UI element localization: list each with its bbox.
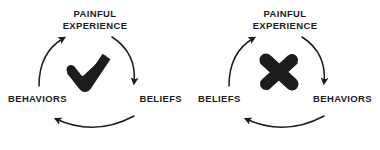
- label-behaviors-left: BEHAVIORS: [8, 93, 67, 105]
- cycle-diagram-healthy: PAINFUL EXPERIENCE BEHAVIORS BELIEFS: [0, 0, 190, 150]
- label-painful-experience-right: PAINFUL EXPERIENCE: [190, 8, 380, 32]
- painful-line: PAINFUL: [74, 8, 117, 19]
- arrow-left-to-experience: [39, 38, 64, 86]
- label-beliefs-left: BELIEFS: [139, 93, 182, 105]
- label-painful-experience-left: PAINFUL EXPERIENCE: [0, 8, 190, 32]
- label-behaviors-right: BEHAVIORS: [313, 93, 372, 105]
- experience-line: EXPERIENCE: [190, 20, 380, 32]
- arrow-experience-to-right: [112, 37, 134, 83]
- arrow-left-to-experience: [229, 38, 254, 86]
- arrow-right-to-left: [246, 116, 324, 127]
- diagram-canvas: PAINFUL EXPERIENCE BEHAVIORS BELIEFS: [0, 0, 380, 150]
- arrow-experience-to-right: [302, 37, 324, 83]
- cycle-diagram-unhealthy: PAINFUL EXPERIENCE BELIEFS BEHAVIORS: [190, 0, 380, 150]
- painful-line: PAINFUL: [264, 8, 307, 19]
- arrow-right-to-left: [56, 116, 134, 127]
- cross-icon: [264, 59, 294, 86]
- experience-line: EXPERIENCE: [0, 20, 190, 32]
- checkmark-icon: [70, 55, 107, 87]
- label-beliefs-right: BELIEFS: [198, 93, 241, 105]
